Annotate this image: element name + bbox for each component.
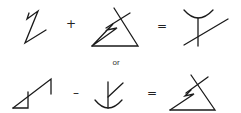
or-connector-label: or: [106, 58, 126, 67]
plus-operator: +: [66, 17, 76, 31]
glyph-equations-canvas: [0, 0, 241, 113]
minus-operator: –: [71, 86, 81, 100]
z-zigzag-glyph-icon: [25, 11, 46, 43]
crossed-triangle-result-glyph-icon: [170, 75, 215, 110]
step-triangle-glyph-icon: [13, 79, 51, 108]
crossed-cup-glyph-icon: [184, 10, 228, 46]
crossed-triangle-glyph-icon: [92, 8, 138, 46]
anchor-glyph-icon: [95, 82, 123, 108]
equals-operator-2: =: [147, 86, 157, 100]
equals-operator-1: =: [157, 19, 167, 33]
